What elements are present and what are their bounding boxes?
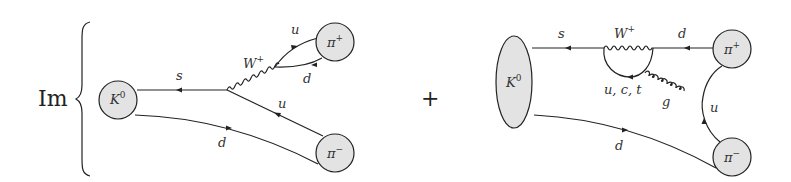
arrow-icon <box>176 88 182 93</box>
u-right-label: u <box>710 100 718 115</box>
diagram-tree-level: s W+ u d u d K0 π+ π− <box>99 22 354 172</box>
w-label: W+ <box>614 24 635 41</box>
d-bottom-label: d <box>218 135 226 150</box>
d-quark-bottom-line <box>135 115 318 164</box>
arrow-icon <box>622 128 628 133</box>
im-label: Im <box>38 86 68 111</box>
plus-operator: + <box>421 86 439 111</box>
arrow-icon <box>274 113 281 118</box>
w-boson-line <box>604 46 653 50</box>
diagram-penguin: s W+ u, c, t d g u d K0 π+ π− <box>496 24 751 176</box>
gluon-label: g <box>662 94 670 109</box>
d-top-label: d <box>303 71 311 86</box>
arrow-icon <box>627 75 633 80</box>
arrow-icon <box>684 46 690 51</box>
s-label: s <box>176 68 183 83</box>
u-mid-label: u <box>278 96 286 111</box>
arrow-icon <box>565 46 571 51</box>
d-bottom-label: d <box>615 138 623 153</box>
left-brace <box>76 22 90 176</box>
d-top-label: d <box>678 26 686 41</box>
loop-label: u, c, t <box>604 82 642 97</box>
d-quark-bottom-line <box>534 115 716 168</box>
gluon-line <box>645 71 684 91</box>
w-label: W+ <box>243 54 264 71</box>
feynman-figure: Im s W+ u d u d K0 π+ π− + <box>0 0 791 182</box>
u-top-label: u <box>291 22 299 37</box>
s-label: s <box>558 26 565 41</box>
